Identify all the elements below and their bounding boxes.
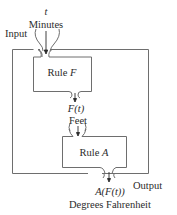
input-funnel-right [50,29,59,51]
input-unit-label: Minutes [29,19,63,30]
output-variable-label: A(F(t)) [94,186,125,198]
intermediate-unit-label: Feet [69,115,87,126]
output-funnel-right [114,174,115,179]
input-variable-label: t [45,6,49,17]
intermediate-variable-label: F(t) [67,103,85,115]
output-funnel-left [103,174,104,179]
function-composition-diagram: t Minutes Input Rule F F(t) Feet Rule A … [0,0,177,215]
rule-a-label: Rule A [80,147,109,158]
outer-composite-box [13,50,41,56]
input-funnel-left [35,29,43,51]
output-label: Output [133,180,162,191]
rule-f-output-arrowhead-icon [74,99,77,103]
rule-f-label: Rule F [48,67,77,78]
input-label: Input [5,28,27,39]
input-arrowhead-icon [44,50,47,54]
rule-f-output-right [78,95,80,98]
output-unit-label: Degrees Fahrenheit [69,199,151,210]
rule-a-input-arrowhead-icon [77,133,80,137]
output-arrowhead-icon [108,179,111,183]
rule-f-output-left [70,95,72,98]
